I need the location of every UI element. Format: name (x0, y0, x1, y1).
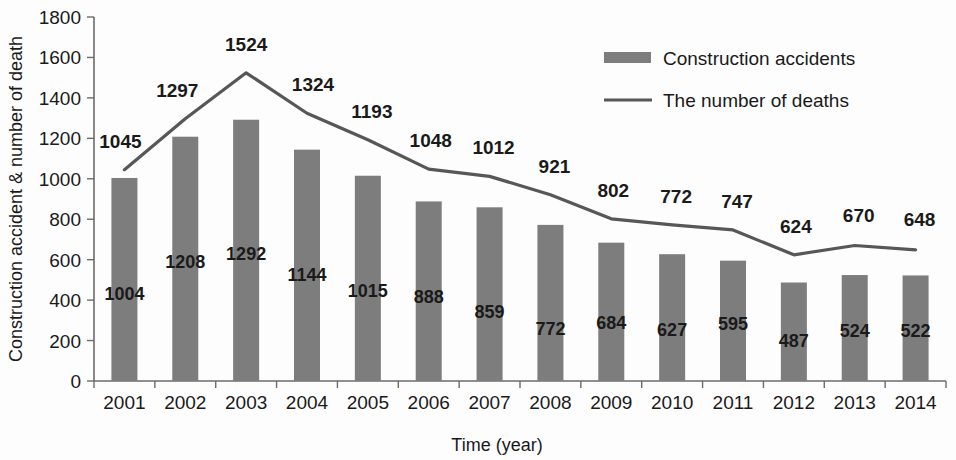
x-tick-label: 2014 (894, 392, 937, 413)
bar (477, 207, 503, 381)
x-tick-label: 2008 (529, 392, 571, 413)
line-value-label: 1324 (292, 74, 335, 95)
bar-value-label: 1144 (287, 265, 326, 285)
y-tick-label: 800 (49, 209, 81, 230)
bar-value-label: 684 (596, 313, 626, 333)
bar-value-label: 888 (414, 287, 444, 307)
bar (111, 178, 137, 381)
x-tick-label: 2005 (347, 392, 389, 413)
line-value-label: 1524 (225, 34, 268, 55)
x-tick-label: 2009 (590, 392, 632, 413)
bar (537, 225, 563, 381)
chart-container: 020040060080010001200140016001800 200120… (0, 0, 956, 460)
legend-bar-swatch-icon (604, 52, 651, 63)
x-tick-label: 2012 (773, 392, 815, 413)
chart-canvas: 020040060080010001200140016001800 200120… (0, 0, 956, 460)
line-value-label: 648 (904, 209, 936, 230)
line-value-label: 921 (539, 156, 571, 177)
bar-value-label: 1004 (104, 284, 144, 304)
y-axis-group: 020040060080010001200140016001800 (39, 7, 94, 392)
bar (598, 243, 624, 381)
x-tick-label: 2003 (225, 392, 267, 413)
y-tick-label: 1000 (39, 169, 81, 190)
line-value-label: 1045 (99, 131, 142, 152)
line-value-label: 624 (780, 216, 812, 237)
bar-value-label: 524 (840, 321, 870, 341)
bar-value-label: 595 (718, 314, 748, 334)
x-axis-ticks (94, 381, 946, 388)
x-tick-label: 2001 (103, 392, 145, 413)
x-axis-group: 2001200220032004200520062007200820092010… (94, 381, 946, 413)
line-value-label: 802 (597, 180, 629, 201)
y-tick-label: 1400 (39, 88, 81, 109)
line-value-label: 1012 (472, 137, 514, 158)
bar-value-label: 522 (901, 321, 931, 341)
y-tick-label: 0 (70, 371, 81, 392)
x-tick-label: 2002 (164, 392, 206, 413)
bar-value-label: 859 (475, 302, 505, 322)
y-tick-label: 200 (49, 331, 81, 352)
legend-label-construction-accidents: Construction accidents (663, 48, 855, 69)
x-tick-label: 2004 (286, 392, 329, 413)
bar-value-label: 1292 (226, 244, 266, 264)
legend: Construction accidents The number of dea… (604, 48, 855, 111)
x-tick-label: 2010 (651, 392, 693, 413)
y-axis-title: Construction accident & number of death (6, 36, 26, 362)
bar-value-label: 1208 (165, 252, 205, 272)
line-value-label: 772 (660, 186, 692, 207)
x-tick-label: 2006 (408, 392, 450, 413)
y-axis-ticks (87, 17, 94, 381)
legend-label-number-of-deaths: The number of deaths (663, 90, 849, 111)
x-tick-label: 2007 (468, 392, 510, 413)
line-value-label: 1297 (156, 80, 198, 101)
bar-value-label: 487 (779, 331, 809, 351)
x-tick-label: 2013 (834, 392, 876, 413)
bar-value-label: 772 (535, 319, 565, 339)
x-axis-tick-labels: 2001200220032004200520062007200820092010… (103, 392, 937, 413)
line-value-label: 1193 (351, 101, 392, 122)
bar (659, 254, 685, 381)
y-tick-label: 1200 (39, 128, 81, 149)
y-tick-label: 1800 (39, 7, 81, 28)
y-axis-tick-labels: 020040060080010001200140016001800 (39, 7, 81, 392)
line-value-label: 747 (721, 191, 753, 212)
y-tick-label: 600 (49, 250, 81, 271)
bar-value-label: 1015 (348, 281, 388, 301)
bar-value-label: 627 (657, 320, 687, 340)
line-value-label: 1048 (410, 130, 452, 151)
y-tick-label: 400 (49, 290, 81, 311)
x-tick-label: 2011 (713, 392, 754, 413)
y-tick-label: 1600 (39, 47, 81, 68)
line-value-label: 670 (843, 205, 875, 226)
x-axis-title: Time (year) (451, 435, 542, 455)
bar (355, 176, 381, 381)
